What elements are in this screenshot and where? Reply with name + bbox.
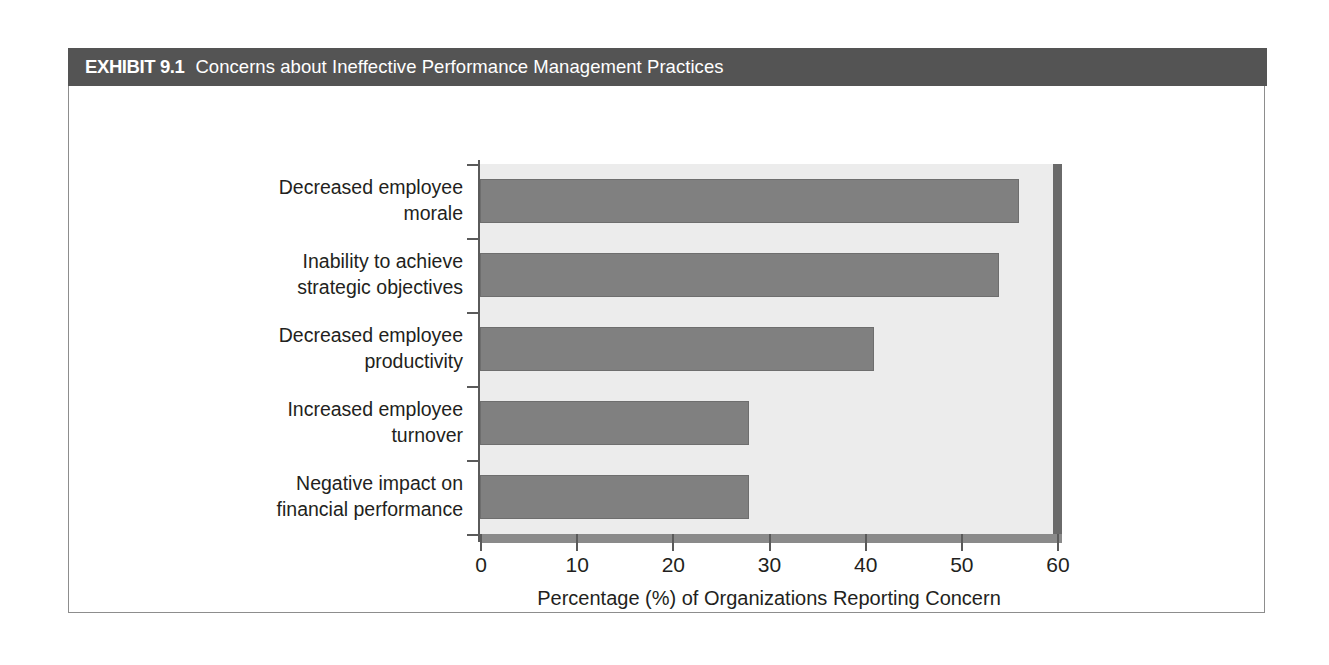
exhibit-header: EXHIBIT 9.1 Concerns about Ineffective P… bbox=[68, 48, 1267, 86]
x-axis-tick-label: 50 bbox=[932, 553, 992, 577]
y-axis-tick bbox=[467, 534, 479, 536]
y-axis-tick bbox=[467, 312, 479, 314]
x-axis-tick bbox=[672, 534, 674, 551]
exhibit-title: Concerns about Ineffective Performance M… bbox=[195, 56, 723, 78]
x-axis-tick-label: 60 bbox=[1028, 553, 1088, 577]
bar-chart: Decreased employee moraleInability to ac… bbox=[69, 87, 1266, 614]
category-label: Increased employee turnover bbox=[163, 397, 463, 448]
category-label: Inability to achieve strategic objective… bbox=[163, 249, 463, 300]
bar bbox=[480, 179, 1019, 223]
exhibit-number-label: EXHIBIT 9.1 bbox=[85, 56, 184, 78]
x-axis-tick-label: 10 bbox=[547, 553, 607, 577]
x-axis-tick bbox=[865, 534, 867, 551]
bar bbox=[480, 401, 749, 445]
x-axis-tick bbox=[961, 534, 963, 551]
category-label: Decreased employee morale bbox=[163, 175, 463, 226]
x-axis-tick-label: 20 bbox=[643, 553, 703, 577]
x-axis-tick bbox=[769, 534, 771, 551]
category-label: Decreased employee productivity bbox=[163, 323, 463, 374]
x-axis-tick-label: 30 bbox=[740, 553, 800, 577]
y-axis-tick bbox=[467, 386, 479, 388]
bar bbox=[480, 253, 999, 297]
bar bbox=[480, 475, 749, 519]
bar bbox=[480, 327, 874, 371]
y-axis-tick bbox=[467, 238, 479, 240]
category-label: Negative impact on financial performance bbox=[163, 471, 463, 522]
x-axis-tick bbox=[480, 534, 482, 551]
x-axis-tick bbox=[1057, 534, 1059, 551]
plot-floor bbox=[480, 534, 1062, 543]
x-axis-title: Percentage (%) of Organizations Reportin… bbox=[480, 587, 1058, 610]
x-axis-tick bbox=[576, 534, 578, 551]
x-axis-tick-label: 40 bbox=[836, 553, 896, 577]
exhibit-card: EXHIBIT 9.1 Concerns about Ineffective P… bbox=[68, 48, 1265, 613]
y-axis-tick bbox=[467, 460, 479, 462]
plot-right-wall bbox=[1053, 164, 1062, 542]
x-axis-tick-label: 0 bbox=[451, 553, 511, 577]
y-axis-tick bbox=[467, 164, 479, 166]
